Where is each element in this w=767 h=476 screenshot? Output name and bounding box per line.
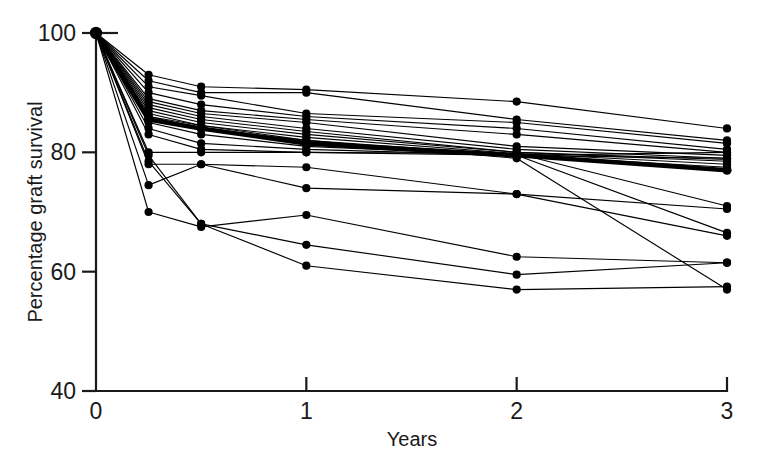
series-marker-centre-21-x0.25	[144, 112, 152, 120]
series-marker-centre-20-x2	[513, 285, 521, 293]
series-markers-group	[90, 27, 732, 294]
series-line-centre-02	[96, 33, 727, 140]
series-marker-centre-20-x1	[302, 262, 310, 270]
series-marker-centre-16-x3	[723, 232, 731, 240]
series-marker-centre-01-x3	[723, 124, 731, 132]
series-marker-centre-15-x1	[302, 148, 310, 156]
x-tick-label-0: 0	[90, 398, 103, 424]
x-tick-labels: 0123	[90, 398, 734, 424]
x-tick-marks	[306, 377, 727, 391]
series-marker-centre-13-x3	[723, 154, 731, 162]
series-marker-centre-17-x0.5	[197, 160, 205, 168]
series-marker-centre-16-x1	[302, 163, 310, 171]
x-axis-group: 0123 Years	[90, 377, 734, 450]
y-axis-title: Percentage graft survival	[24, 101, 46, 322]
series-marker-centre-18-x0.25	[144, 208, 152, 216]
series-marker-centre-21-x2	[513, 154, 521, 162]
y-tick-label-100: 100	[38, 20, 76, 46]
series-marker-centre-17-x2	[513, 190, 521, 198]
series-marker-centre-21-x3	[723, 285, 731, 293]
series-marker-centre-14-x0.25	[144, 130, 152, 138]
x-tick-label-1: 1	[300, 398, 313, 424]
series-marker-centre-19-x2	[513, 271, 521, 279]
y-tick-marks	[82, 33, 118, 391]
series-line-centre-15	[96, 33, 727, 206]
series-marker-centre-18-x1	[302, 211, 310, 219]
y-axis-group: 406080100 Percentage graft survival	[24, 20, 118, 404]
series-marker-centre-18-x2	[513, 253, 521, 261]
series-marker-centre-19-x3	[723, 259, 731, 267]
x-axis-title: Years	[387, 428, 437, 450]
series-marker-centre-17-x3	[723, 205, 731, 213]
series-marker-origin-100	[90, 27, 102, 39]
y-tick-label-40: 40	[50, 378, 76, 404]
y-tick-label-80: 80	[50, 139, 76, 165]
series-marker-centre-17-x1	[302, 184, 310, 192]
series-marker-centre-21-x0.5	[197, 121, 205, 129]
series-marker-centre-19-x1	[302, 241, 310, 249]
series-marker-centre-12-x0.5	[197, 130, 205, 138]
x-tick-label-2: 2	[510, 398, 523, 424]
series-marker-overall-x3	[722, 166, 731, 175]
series-line-centre-14	[96, 33, 727, 233]
series-marker-centre-05-x2	[513, 130, 521, 138]
series-marker-centre-20-x0.25	[144, 151, 152, 159]
x-tick-label-3: 3	[721, 398, 734, 424]
series-marker-centre-15-x0.5	[197, 148, 205, 156]
graft-survival-figure: 406080100 Percentage graft survival 0123…	[0, 0, 767, 476]
series-marker-centre-20-x0.5	[197, 220, 205, 228]
chart-canvas: 406080100 Percentage graft survival 0123…	[0, 0, 767, 476]
series-marker-centre-03-x0.5	[197, 92, 205, 100]
series-lines-group	[96, 33, 727, 290]
series-marker-centre-02-x1	[302, 89, 310, 97]
series-marker-centre-21-x1	[302, 136, 310, 144]
series-marker-centre-01-x2	[513, 98, 521, 106]
y-tick-label-60: 60	[50, 259, 76, 285]
series-marker-centre-17-x0.25	[144, 181, 152, 189]
